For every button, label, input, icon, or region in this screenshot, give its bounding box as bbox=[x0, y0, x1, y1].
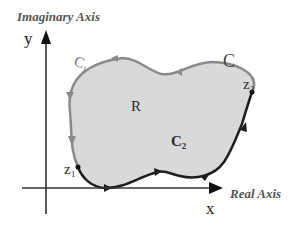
c2-label: C₂ bbox=[171, 134, 186, 149]
z2-label: z₂ bbox=[243, 77, 255, 92]
z1-label: z₁ bbox=[64, 162, 76, 177]
region-r-label: R bbox=[131, 99, 141, 114]
contour-diagram: Imaginary Axis y Real Axis x C₁ C R C₂ z… bbox=[0, 0, 302, 226]
z1-point bbox=[76, 165, 81, 170]
y-axis-title: Imaginary Axis bbox=[17, 10, 100, 23]
x-axis-title: Real Axis bbox=[230, 187, 281, 200]
x-axis-variable: x bbox=[206, 200, 215, 217]
region-r-shape bbox=[70, 58, 255, 188]
y-axis-variable: y bbox=[24, 30, 33, 47]
x-axis-arrowhead bbox=[209, 182, 223, 194]
y-axis-arrowhead bbox=[41, 30, 51, 44]
contour-c-label: C bbox=[223, 52, 235, 70]
